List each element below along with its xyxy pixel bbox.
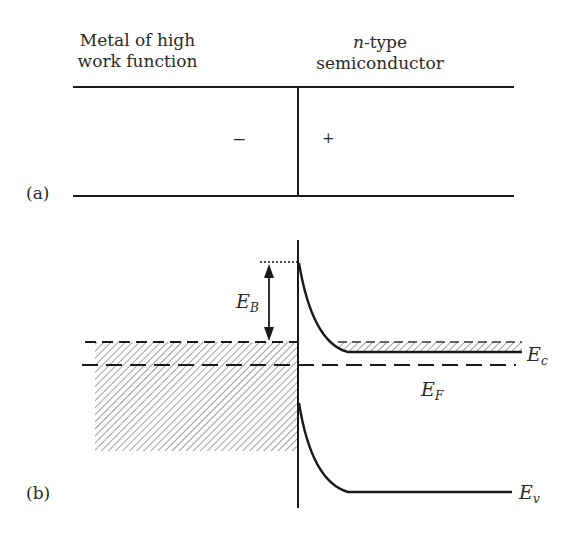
semiconductor-title-line2: semiconductor	[315, 53, 445, 74]
metal-filled-states-hatch	[95, 342, 298, 451]
panel-b-label: (b)	[26, 483, 50, 504]
metal-semiconductor-junction-diagram: Metal of high work function n-type semic…	[0, 0, 576, 536]
arrow-up-icon	[264, 264, 274, 278]
valence-band-label: Ev	[519, 482, 540, 510]
semiconductor-electrons-hatch	[338, 342, 522, 352]
semiconductor-title-line1: -type	[364, 32, 407, 52]
metal-title-line2: work function	[70, 51, 205, 72]
metal-title-line1: Metal of high	[70, 30, 205, 51]
conduction-band-curve	[299, 263, 522, 352]
n-italic: n	[353, 32, 364, 52]
barrier-energy-label: EB	[236, 291, 259, 319]
panel-a-label: (a)	[26, 183, 49, 204]
semiconductor-title: n-type semiconductor	[315, 32, 445, 74]
positive-charge: +	[322, 128, 335, 149]
panel-a-lines	[73, 87, 514, 196]
diagram-graphics	[0, 0, 576, 536]
valence-band-curve	[299, 403, 512, 492]
metal-title: Metal of high work function	[70, 30, 205, 72]
conduction-band-label: Ec	[527, 344, 548, 372]
fermi-level-label: EF	[421, 379, 443, 407]
arrow-down-icon	[264, 327, 274, 341]
negative-charge: −	[232, 129, 246, 150]
